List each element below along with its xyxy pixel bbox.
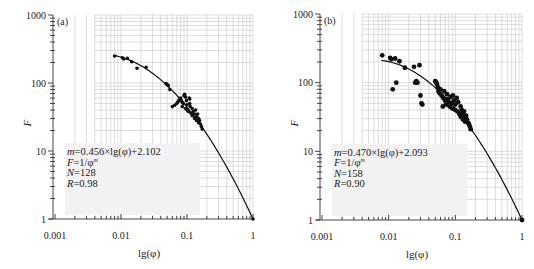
data-point xyxy=(415,80,420,85)
data-point xyxy=(520,218,525,223)
annotation-line: R=0.98 xyxy=(66,178,98,189)
y-axis-title: F xyxy=(288,119,300,127)
data-point xyxy=(181,105,185,109)
x-tick-label: 0.01 xyxy=(112,230,130,241)
data-point xyxy=(251,217,255,221)
panel-b: 11010010000.0010.010.11lg(φ)F(b)m=0.470×… xyxy=(288,9,525,262)
data-point xyxy=(412,64,417,69)
data-point xyxy=(126,57,130,61)
x-axis-title: lg(φ) xyxy=(138,247,161,260)
data-point xyxy=(200,127,204,131)
annotation-line: N=128 xyxy=(66,167,96,178)
y-tick-label: 1 xyxy=(41,214,46,225)
data-point xyxy=(468,127,473,132)
x-tick-label: 0.1 xyxy=(181,230,194,241)
data-point xyxy=(397,59,402,64)
y-tick-label: 1 xyxy=(308,215,313,226)
figure: 11010010000.0010.010.11lg(φ)F(a)m=0.456×… xyxy=(0,0,534,269)
data-point xyxy=(184,95,188,99)
data-point xyxy=(144,66,148,70)
y-tick-label: 100 xyxy=(298,77,313,88)
data-point xyxy=(462,109,467,114)
panel-a: 11010010000.0010.010.11lg(φ)F(a)m=0.456×… xyxy=(21,10,256,261)
y-tick-label: 100 xyxy=(31,78,46,89)
y-tick-label: 1000 xyxy=(26,10,46,21)
data-point xyxy=(194,108,198,112)
data-point xyxy=(402,65,407,70)
panel-label: (b) xyxy=(324,15,336,27)
x-tick-label: 1 xyxy=(251,230,256,241)
data-point xyxy=(420,102,425,107)
y-axis-title: F xyxy=(21,119,33,127)
data-point xyxy=(196,112,200,116)
x-tick-label: 1 xyxy=(520,231,525,242)
panel-label: (a) xyxy=(57,16,68,28)
data-point xyxy=(390,87,395,92)
data-point xyxy=(417,63,422,68)
data-point xyxy=(198,119,202,123)
data-point xyxy=(166,84,170,88)
x-tick-label: 0.1 xyxy=(449,231,462,242)
data-point xyxy=(394,80,399,85)
data-point xyxy=(380,53,385,58)
data-point xyxy=(122,57,126,61)
data-point xyxy=(393,56,398,61)
data-point xyxy=(456,100,461,105)
data-point xyxy=(454,96,459,101)
y-tick-label: 10 xyxy=(36,146,46,157)
annotation-line: R=0.90 xyxy=(333,178,365,189)
data-point xyxy=(418,93,423,98)
data-point xyxy=(182,102,186,106)
y-tick-label: 10 xyxy=(303,146,313,157)
data-point xyxy=(135,66,139,70)
annotation-line: N=158 xyxy=(333,168,363,179)
x-tick-label: 0.001 xyxy=(311,231,334,242)
y-tick-label: 1000 xyxy=(293,9,313,20)
data-point xyxy=(185,99,189,103)
data-point xyxy=(188,97,192,101)
data-point xyxy=(188,102,192,106)
data-point xyxy=(130,60,134,64)
x-axis-title: lg(φ) xyxy=(406,248,429,261)
data-point xyxy=(113,54,117,58)
x-tick-label: 0.001 xyxy=(44,230,67,241)
x-tick-label: 0.01 xyxy=(380,231,398,242)
data-point xyxy=(168,88,172,92)
data-point xyxy=(184,107,188,111)
